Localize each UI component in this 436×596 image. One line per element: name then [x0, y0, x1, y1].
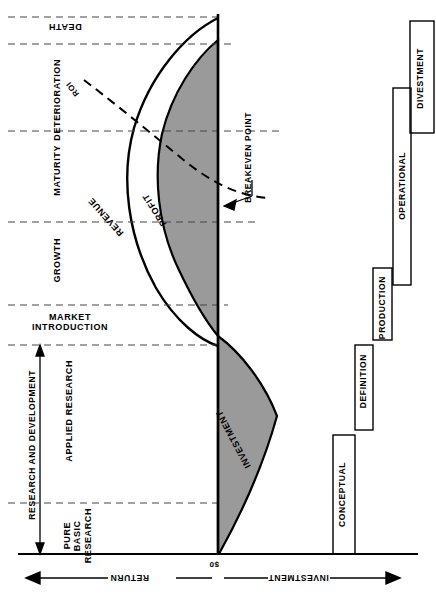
investment-shaded-region	[218, 336, 277, 552]
annotation-breakeven-point: BREAKEVEN POINT	[244, 112, 254, 203]
stage-label-growth: GROWTH	[52, 238, 62, 283]
diagram-canvas	[0, 0, 436, 596]
bottom-axis-arrows	[26, 572, 400, 584]
stage-label-applied-research: APPLIED RESEARCH	[64, 360, 74, 462]
phase-label-production: PRODUCTION	[378, 276, 388, 339]
stage-label-death: DEATH	[30, 22, 100, 32]
axis-zero-label: $0	[209, 560, 219, 569]
phase-label-operational: OPERATIONAL	[398, 152, 408, 220]
phase-label-divestment: DIVESTMENT	[416, 48, 426, 109]
stage-label-maturity: MATURITY	[52, 145, 62, 196]
phase-label-conceptual: CONCEPTUAL	[338, 462, 348, 527]
product-life-cycle-diagram: DEATH DETERIORATION MATURITY GROWTH MARK…	[0, 0, 436, 596]
stage-label-deterioration: DETERIORATION	[52, 59, 62, 141]
axis-label-return: RETURN	[110, 572, 149, 582]
stage-label-pure-basic-research: PURE BASIC RESEARCH	[62, 508, 93, 563]
bracket-label-research-and-development: RESEARCH AND DEVELOPMENT	[28, 370, 38, 520]
phase-label-definition: DEFINITION	[359, 354, 369, 408]
axis-label-investment: INVESTMENT	[268, 572, 329, 582]
profit-shaded-region	[158, 40, 218, 336]
stage-label-market-introduction: MARKET INTRODUCTION	[18, 312, 122, 333]
